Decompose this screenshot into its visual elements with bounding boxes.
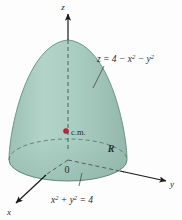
surface-equation-label: z = 4 − x2 − y2	[96, 53, 155, 65]
origin-label: 0	[65, 164, 70, 175]
x-axis	[16, 175, 46, 203]
center-of-mass-label: c.m.	[71, 127, 86, 137]
paraboloid-figure: z y x 0 R c.m. z = 4 − x2 − y2 x2 + y2 =…	[0, 0, 182, 220]
y-axis	[120, 171, 166, 181]
base-equation-mid: + y	[58, 195, 74, 205]
base-equation-tail: = 4	[77, 195, 93, 205]
region-label: R	[107, 143, 115, 154]
x-axis-label: x	[6, 207, 11, 217]
surface-equation-mid: − y	[135, 54, 151, 64]
base-circle-equation-label: x2 + y2 = 4	[50, 194, 93, 206]
surface-equation-exponent-2: 2	[151, 53, 155, 60]
figure-canvas: z y x 0 R c.m. z = 4 − x2 − y2 x2 + y2 =…	[0, 0, 182, 220]
center-of-mass-dot	[63, 128, 68, 133]
y-axis-label: y	[169, 179, 174, 189]
z-axis-label: z	[60, 2, 65, 12]
surface-equation-base: z = 4 − x	[96, 54, 133, 64]
